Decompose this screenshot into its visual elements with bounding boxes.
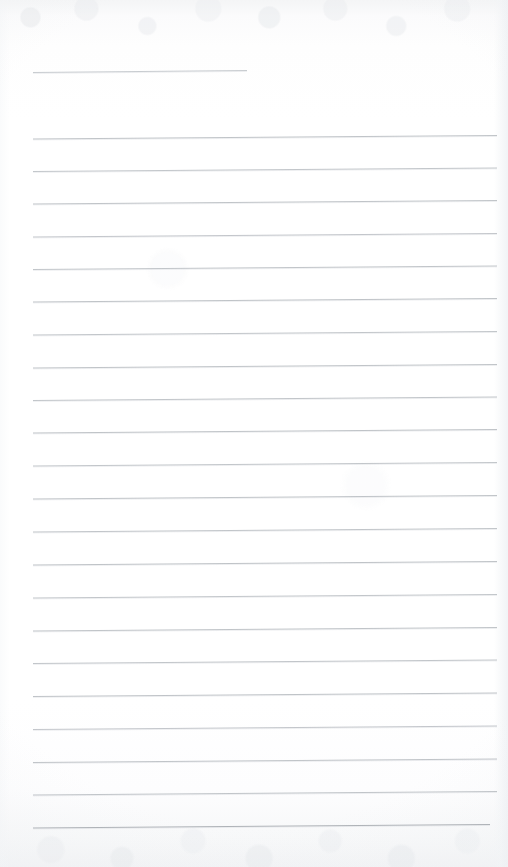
scanned-page <box>0 0 508 867</box>
page-text-content <box>0 0 508 867</box>
